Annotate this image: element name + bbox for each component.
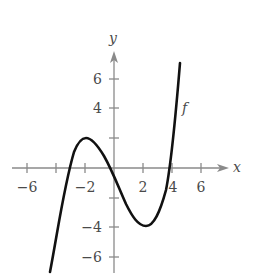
x-tick-label: −2 — [75, 179, 96, 195]
x-tick-label: 4 — [169, 179, 178, 195]
y-axis — [109, 51, 119, 273]
x-tick-label: −6 — [17, 179, 38, 195]
x-tick-label: 6 — [197, 179, 206, 195]
y-tick-label: −4 — [81, 219, 102, 235]
x-axis — [12, 163, 229, 173]
x-tick-label: 2 — [139, 179, 148, 195]
y-tick-label: 6 — [93, 71, 102, 87]
curve-label-f: f — [181, 100, 190, 116]
y-tick-label: 4 — [93, 100, 102, 116]
function-graph: x y −6 −2 2 4 6 6 4 −4 −6 f — [0, 0, 265, 275]
x-axis-label: x — [233, 159, 241, 175]
y-axis-label: y — [108, 30, 118, 46]
y-tick-label: −6 — [81, 249, 102, 265]
